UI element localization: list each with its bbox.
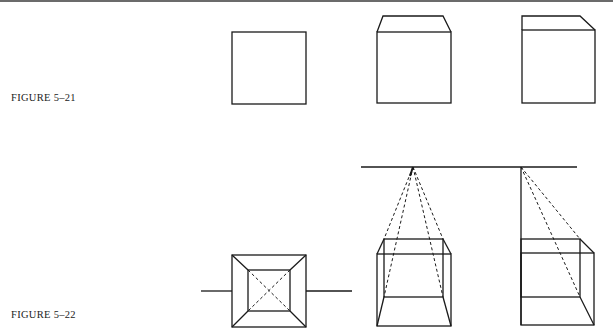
fig-5-22-top-view-box (201, 255, 352, 327)
fig-5-22-cube-side-vp (521, 167, 594, 325)
fig-5-21-cube-center (377, 16, 451, 103)
figures-drawing (0, 0, 613, 335)
fig-5-22-cube-central-vp (377, 167, 451, 326)
fig-5-21-cube-right (522, 16, 595, 103)
fig-5-21-square (232, 32, 306, 104)
